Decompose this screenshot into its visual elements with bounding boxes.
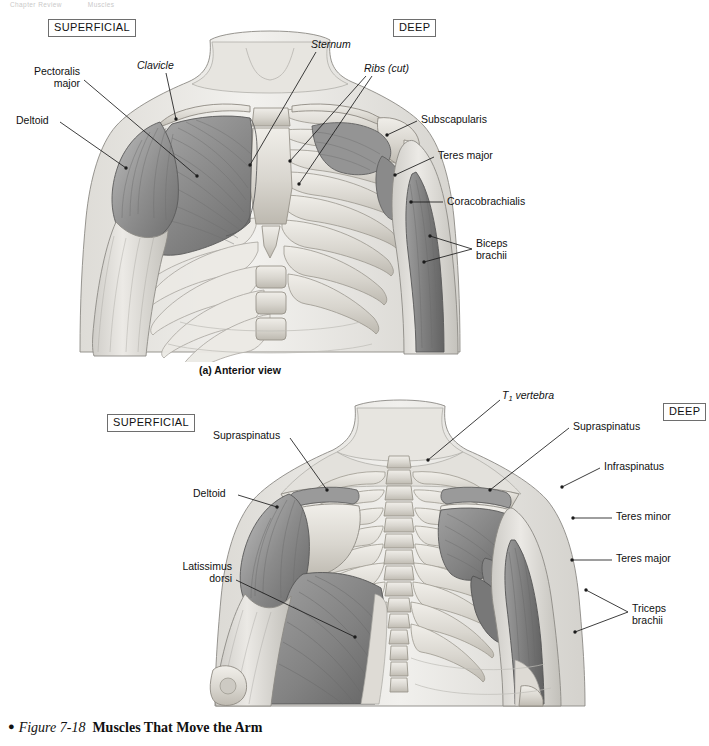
figure-bullet: ● [8,720,15,732]
figure-number: Figure 7-18 [19,720,86,735]
figure-caption: ●Figure 7-18Muscles That Move the Arm [8,720,262,736]
leader-lines [0,0,709,746]
figure-title: Muscles That Move the Arm [92,720,262,735]
figure-page: Chapter ReviewMuscles [0,0,709,746]
